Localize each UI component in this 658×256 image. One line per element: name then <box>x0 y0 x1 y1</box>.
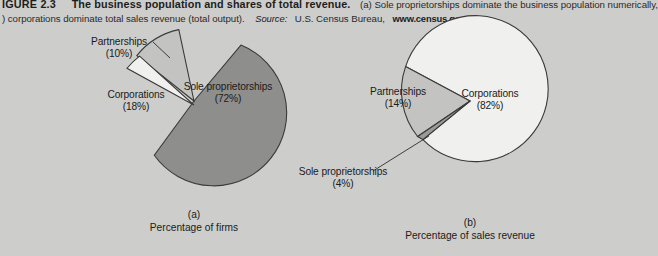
pie-a-subcaption: (a) Percentage of firms <box>119 208 269 234</box>
pie-a-label-corporations: Corporations (18%) <box>81 89 191 114</box>
figure-caption: IGURE 2.3 The business population and sh… <box>0 0 614 25</box>
pie-b-label-corporations: Corporations (82%) <box>440 88 540 113</box>
pie-b-label-partnerships: Partnerships (14%) <box>343 86 453 111</box>
pie-b-label-sole-proprietorships: Sole proprietorships (4%) <box>283 166 403 191</box>
source-label: Source: <box>255 13 287 24</box>
figure-number: IGURE 2.3 <box>2 0 56 10</box>
figure-note-b: ) corporations dominate total sales reve… <box>2 13 245 24</box>
pie-chart-a: Partnerships (10%) Corporations (18%) So… <box>119 26 269 176</box>
pie-b-subcaption: (b) Percentage of sales revenue <box>380 216 560 242</box>
caption-line-2: ) corporations dominate total sales reve… <box>2 12 612 25</box>
figure-note-a: (a) Sole proprietorships dominate the bu… <box>360 0 658 10</box>
source-text: U.S. Census Bureau, <box>295 13 385 24</box>
pie-a-label-partnerships: Partnerships (10%) <box>64 36 174 61</box>
caption-line-1: IGURE 2.3 The business population and sh… <box>2 0 612 11</box>
figure-title: The business population and shares of to… <box>72 0 351 10</box>
charts-container: Partnerships (10%) Corporations (18%) So… <box>0 28 614 256</box>
pie-a-label-sole-proprietorships: Sole proprietorships (72%) <box>182 81 274 106</box>
pie-chart-b: Partnerships (14%) Corporations (82%) So… <box>395 26 545 176</box>
